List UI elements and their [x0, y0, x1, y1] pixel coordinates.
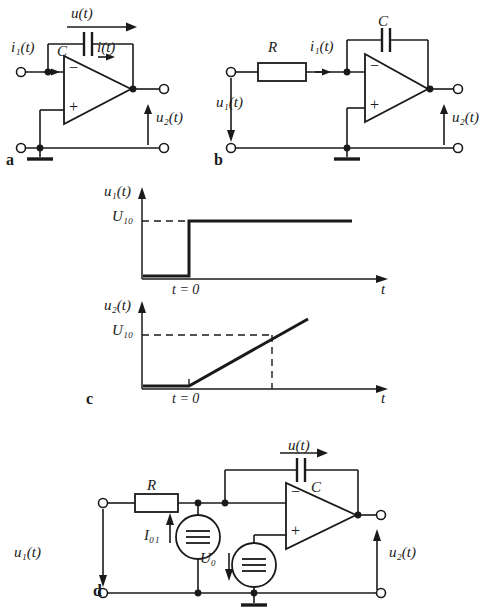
label-u1-t-plot-c: u₁(t) — [104, 184, 131, 199]
terminal-bottom-left-a — [17, 144, 26, 153]
label-u1-t-d: u₁(t) — [14, 545, 41, 560]
panel-c-ramp-plot — [120, 297, 440, 402]
figure-root: u(t) C i₁(t) i(t) u₂(t) − + a — [0, 0, 496, 616]
node-dot-d-out — [355, 512, 362, 519]
label-t-axis-ramp: t — [381, 391, 385, 406]
voltage-arrow-U0 — [225, 569, 233, 581]
label-u2-t-a: u₂(t) — [156, 110, 183, 125]
label-U0-d: U₀ — [200, 551, 216, 566]
label-c-a: C — [57, 44, 67, 59]
opamp-inverting-sign-a: − — [69, 60, 78, 76]
opamp-noninverting-sign-a: + — [69, 99, 78, 115]
label-u2-t-plot-c: u₂(t) — [104, 298, 131, 313]
panel-c-step-plot — [120, 183, 440, 288]
opamp-noninverting-sign-b: + — [370, 97, 379, 113]
label-U10-ramp: U₁₀ — [112, 323, 133, 338]
resistor-R-d — [135, 494, 178, 512]
label-c-b: C — [378, 14, 388, 29]
panel-b-circuit — [210, 0, 496, 170]
voltage-arrow-u2-d — [373, 529, 381, 541]
panel-d-circuit — [90, 425, 496, 616]
label-U10-step: U₁₀ — [112, 209, 133, 224]
node-dot-b-out — [427, 86, 434, 93]
current-arrow-i1-b — [322, 69, 331, 76]
current-arrow-i1-a — [51, 69, 60, 76]
opamp-noninverting-sign-d: + — [291, 523, 300, 539]
terminal-bottom-left-b — [227, 144, 236, 153]
voltage-arrow-u1-b — [227, 130, 235, 142]
terminal-output-d — [377, 511, 386, 520]
panel-label-a: a — [6, 152, 14, 168]
node-dot-a-out — [130, 86, 137, 93]
panel-label-c: c — [86, 391, 93, 407]
terminal-input-b — [227, 68, 236, 77]
label-t0-ramp: t = 0 — [172, 392, 199, 406]
opamp-inverting-sign-d: − — [291, 484, 300, 500]
terminal-output-b — [454, 85, 463, 94]
terminal-bottom-right-d — [377, 589, 386, 598]
step-waveform — [143, 221, 352, 276]
label-u1-t-b: u₁(t) — [216, 95, 243, 110]
label-i1-t-b: i₁(t) — [310, 39, 334, 54]
terminal-output-a — [160, 85, 169, 94]
terminal-bottom-right-a — [160, 144, 169, 153]
label-t0-step: t = 0 — [172, 283, 199, 297]
label-t-axis-step: t — [381, 282, 385, 297]
panel-label-d: d — [93, 583, 102, 599]
voltage-arrow-u-d — [317, 449, 328, 458]
terminal-bottom-right-b — [454, 144, 463, 153]
opamp-inverting-sign-b: − — [370, 58, 379, 74]
y-axis-arrow-ramp — [138, 301, 146, 313]
label-I01-d: I₀₁ — [144, 528, 159, 543]
panel-a-circuit — [0, 0, 230, 170]
voltage-arrow-u2-b — [440, 104, 448, 114]
voltage-arrow-u-a — [126, 23, 137, 32]
ramp-waveform — [143, 319, 308, 386]
label-u-t-d: u(t) — [288, 438, 310, 453]
resistor-R-b — [258, 63, 306, 81]
label-i-t-a: i(t) — [97, 40, 115, 55]
label-i1-t-a: i₁(t) — [11, 40, 35, 55]
label-r-b: R — [268, 40, 277, 55]
label-c-d: C — [311, 480, 321, 495]
label-u2-t-d: u₂(t) — [389, 545, 416, 560]
voltage-arrow-u2-a — [144, 104, 152, 114]
label-u2-t-b: u₂(t) — [452, 110, 479, 125]
terminal-input-a — [17, 68, 26, 77]
panel-label-b: b — [214, 152, 223, 168]
current-arrow-I01 — [166, 513, 174, 525]
label-r-d: R — [147, 478, 156, 493]
label-u-t-a: u(t) — [71, 6, 93, 21]
y-axis-arrow-step — [138, 187, 146, 199]
terminal-input-d — [99, 499, 108, 508]
